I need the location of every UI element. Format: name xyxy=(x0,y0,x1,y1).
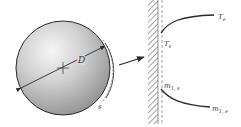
surface-label: s xyxy=(98,103,102,111)
magnify-arrow xyxy=(119,57,144,65)
diameter-label: D xyxy=(77,55,85,65)
wall-detail: Ts Te m1, s m1, e xyxy=(148,0,228,124)
temperature-edge-label: Te xyxy=(218,13,226,22)
concentration-edge-label: m1, e xyxy=(212,105,228,114)
temperature-surface-label: Ts xyxy=(164,40,172,49)
concentration-profile-curve xyxy=(161,89,210,107)
temperature-profile-curve xyxy=(161,15,214,33)
concentration-surface-label: m1, s xyxy=(164,82,180,91)
sphere-boundary-layer-diagram: D s Ts Te m1, s m1, e xyxy=(0,0,241,127)
sphere: D s xyxy=(16,21,114,115)
wall-hatching xyxy=(148,0,158,124)
